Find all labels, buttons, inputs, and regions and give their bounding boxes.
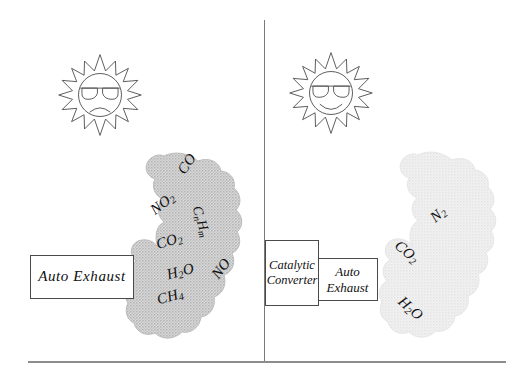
exhaust-plume-untreated	[124, 152, 248, 342]
catalytic-converter-box[interactable]: Catalytic Converter	[265, 240, 319, 306]
auto-exhaust-label-left: Auto Exhaust	[38, 268, 126, 286]
ground-baseline-rule	[28, 361, 506, 363]
panel-divider-line	[264, 20, 265, 363]
auto-exhaust-box-left[interactable]: Auto Exhaust	[30, 255, 134, 299]
auto-exhaust-label-right: Auto Exhaust	[327, 264, 369, 295]
catalytic-converter-label: Catalytic Converter	[267, 258, 318, 288]
auto-exhaust-box-right[interactable]: Auto Exhaust	[317, 258, 378, 301]
sun-smiling-icon	[288, 50, 374, 136]
sun-frowning-icon	[57, 52, 143, 138]
diagram-canvas: CO NO2 CnHm CO2 H2O NO CH4 N2 CO2 H2O Au…	[0, 0, 531, 379]
